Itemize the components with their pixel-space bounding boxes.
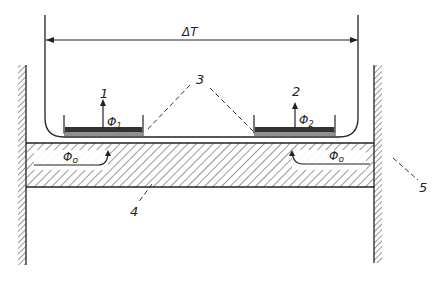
phi2-label: Φ2: [299, 113, 314, 129]
phi1-label: Φ1: [107, 115, 122, 131]
right-wall: [374, 65, 382, 263]
dsc-cell-diagram: ΔT Φ1 Φ2 Φo Φo 1 2 3 4 5: [0, 0, 441, 281]
flux-arrow-2: [292, 102, 298, 128]
callout-5: 5: [419, 180, 427, 195]
left-wall: [18, 65, 26, 265]
callout-4: 4: [130, 204, 138, 219]
callout-2: 2: [292, 84, 300, 99]
flux-arrow-1: [100, 99, 106, 128]
sample-pan-left: [64, 115, 144, 135]
callout-3: 3: [196, 72, 204, 87]
delta-t-dimension: [46, 37, 357, 43]
delta-t-label: ΔT: [181, 25, 199, 39]
callout-1: 1: [100, 86, 108, 101]
